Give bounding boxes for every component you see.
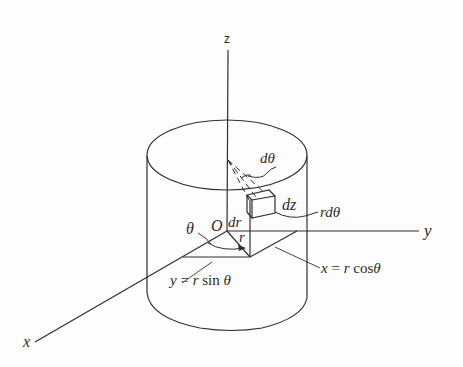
r-label: r: [239, 230, 245, 245]
volume-element-box: [247, 190, 275, 218]
y-eq-theta: θ: [224, 272, 231, 288]
y-eq-lhs: y: [170, 272, 177, 288]
rdtheta-label: rdθ: [320, 205, 340, 220]
x-axis-label: x: [23, 334, 30, 350]
dr-label: dr: [228, 215, 241, 230]
theta-arrowhead: [238, 245, 246, 251]
dtheta-leader: [248, 167, 276, 177]
dz-label: dz: [282, 197, 296, 213]
x-eq-cos: cos: [349, 260, 373, 276]
dtheta-label: dθ: [260, 151, 275, 166]
y-eq-sin: sin: [198, 272, 223, 288]
theta-leader: [198, 233, 211, 244]
dashed-line-2: [228, 160, 256, 197]
theta-label: θ: [186, 221, 194, 237]
x-eq-equals: =: [328, 260, 344, 276]
y-axis-label: y: [424, 222, 432, 239]
x-eq-leader: [275, 247, 320, 268]
dashed-line-1: [228, 160, 249, 200]
cylinder-bottom-arc: [147, 293, 307, 331]
y-equals-r-sin-theta: y = r sin θ: [170, 273, 231, 288]
z-axis: [227, 50, 228, 231]
y-eq-equals: =: [177, 272, 193, 288]
x-equals-r-cos-theta: x = r cosθ: [321, 261, 381, 276]
diagram-drawing: [0, 0, 463, 367]
origin-label: O: [211, 218, 223, 234]
cylindrical-coordinates-diagram: z y x O θ r dr dz dθ rdθ y = r sin θ x =…: [0, 0, 463, 367]
z-axis-label: z: [224, 33, 230, 45]
x-eq-theta: θ: [373, 260, 380, 276]
x-projection-line: [250, 231, 297, 257]
x-eq-lhs: x: [321, 260, 328, 276]
